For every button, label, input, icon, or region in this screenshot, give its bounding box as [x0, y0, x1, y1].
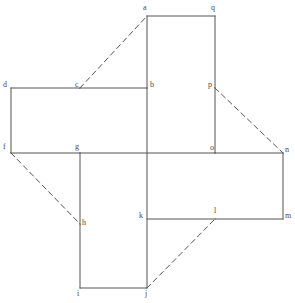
vertex-label-i: i [77, 290, 79, 298]
vertex-label-j: j [145, 290, 147, 298]
vertex-label-n: n [285, 146, 289, 154]
net-figure [0, 0, 295, 303]
dashed-c-a [80, 16, 147, 88]
vertex-label-h: h [82, 219, 86, 227]
vertex-label-l: l [214, 207, 216, 215]
dashed-j-l [147, 219, 215, 288]
diagram-canvas: aqbpdcfgonhklmij [0, 0, 295, 303]
vertex-label-d: d [3, 81, 7, 89]
vertex-label-m: m [285, 212, 291, 220]
vertex-label-k: k [139, 212, 143, 220]
vertex-label-o: o [210, 144, 214, 152]
solid-edge-group [11, 16, 283, 288]
dashed-f-h [11, 153, 80, 224]
vertex-label-g: g [75, 143, 79, 151]
vertex-label-a: a [143, 4, 147, 12]
vertex-label-b: b [150, 81, 154, 89]
vertex-label-c: c [75, 81, 79, 89]
dashed-p-n [215, 88, 283, 153]
vertex-label-p: p [208, 81, 212, 89]
vertex-label-f: f [3, 143, 6, 151]
vertex-label-q: q [211, 4, 215, 12]
